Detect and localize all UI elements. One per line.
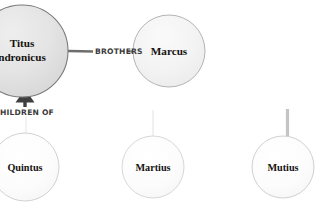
node-mutius-label: Mutius (267, 162, 298, 173)
node-quintus-label: Quintus (7, 162, 42, 173)
node-marcus[interactable]: Marcus (133, 15, 205, 87)
diagram-svg: Titus ndronicus Marcus Quintus Martius M… (0, 0, 336, 211)
diagram-canvas: Titus ndronicus Marcus Quintus Martius M… (0, 0, 336, 211)
edge-children-label: HILDREN OF (0, 108, 54, 117)
node-mutius[interactable]: Mutius (252, 136, 314, 198)
node-titus-andronicus[interactable]: Titus ndronicus (0, 5, 68, 97)
edge-brothers-line-left (68, 51, 94, 52)
node-marcus-label: Marcus (151, 45, 188, 57)
edge-brothers-label-group: BROTHERS (93, 47, 143, 57)
edge-brothers-label: BROTHERS (95, 47, 143, 56)
children-bus-connector (26, 109, 289, 136)
node-martius[interactable]: Martius (122, 136, 184, 198)
node-quintus[interactable]: Quintus (0, 133, 59, 201)
node-titus-label-line1: Titus (10, 37, 35, 49)
edge-children-label-group: HILDREN OF (0, 107, 57, 117)
node-martius-label: Martius (135, 162, 170, 173)
node-titus-label-line2: ndronicus (0, 51, 46, 63)
